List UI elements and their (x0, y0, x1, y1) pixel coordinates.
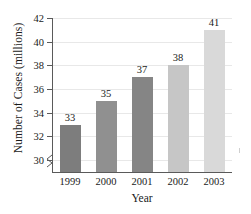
y-tick-label: 36 (22, 89, 44, 90)
y-tick-mark (47, 136, 52, 137)
x-tick-label: 1999 (50, 176, 90, 187)
x-axis-line (52, 172, 232, 173)
y-axis-title: Number of Cases (millions) (12, 8, 24, 168)
y-tick-mark (47, 89, 52, 90)
y-tick-label: 42 (22, 18, 44, 19)
plot-area (52, 18, 232, 172)
bar-value-label: 38 (160, 52, 196, 63)
y-tick-mark (47, 65, 52, 66)
bar-value-label: 37 (124, 64, 160, 75)
x-tick-label: 2002 (158, 176, 198, 187)
x-tick-label: 2001 (122, 176, 162, 187)
y-tick-mark (47, 42, 52, 43)
bar-value-label: 41 (196, 17, 232, 28)
bar-chart: Number of Cases (millions) Year 30323436… (0, 0, 251, 214)
right-edge-tick (239, 148, 240, 153)
y-axis-line (52, 18, 53, 172)
y-tick-label: 34 (22, 113, 44, 114)
bar (96, 101, 117, 172)
x-tick-label: 2000 (86, 176, 126, 187)
y-tick-label: 32 (22, 136, 44, 137)
y-tick-label: 40 (22, 42, 44, 43)
bar (168, 65, 189, 172)
y-tick-mark (47, 160, 52, 161)
bar (204, 30, 225, 172)
x-tick-label: 2003 (194, 176, 234, 187)
x-axis-title: Year (52, 192, 232, 204)
bar (60, 125, 81, 172)
bar (132, 77, 153, 172)
bar-value-label: 33 (52, 112, 88, 123)
bar-value-label: 35 (88, 88, 124, 99)
y-tick-label: 30 (22, 160, 44, 161)
y-tick-mark (47, 18, 52, 19)
y-tick-label: 38 (22, 65, 44, 66)
